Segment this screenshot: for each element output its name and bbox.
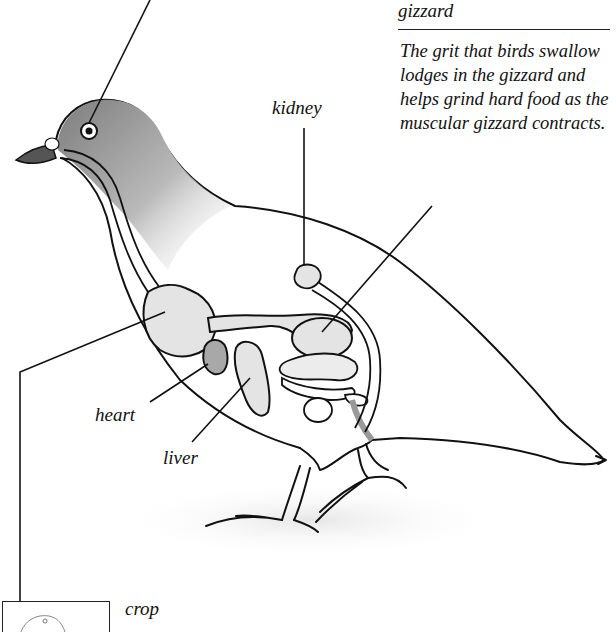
label-liver: liver bbox=[163, 447, 198, 469]
heading-rule bbox=[398, 29, 610, 30]
cere bbox=[45, 138, 59, 150]
label-kidney: kidney bbox=[272, 97, 322, 119]
crop-inset-thumbnail bbox=[2, 601, 110, 632]
label-heart: heart bbox=[95, 404, 135, 426]
liver-leader bbox=[192, 378, 250, 442]
liver-organ bbox=[235, 342, 270, 416]
gizzard-heading: gizzard bbox=[398, 0, 453, 22]
gizzard-organ bbox=[292, 318, 352, 358]
ground-shadow bbox=[110, 482, 510, 558]
inset-bird-sketch bbox=[3, 602, 109, 632]
heart-organ bbox=[203, 340, 227, 374]
intestines bbox=[280, 354, 372, 441]
label-crop: crop bbox=[125, 598, 159, 620]
gizzard-leader bbox=[322, 206, 432, 332]
gizzard-description: The grit that birds swallow lodges in th… bbox=[400, 39, 615, 135]
crop-leader bbox=[20, 312, 165, 601]
